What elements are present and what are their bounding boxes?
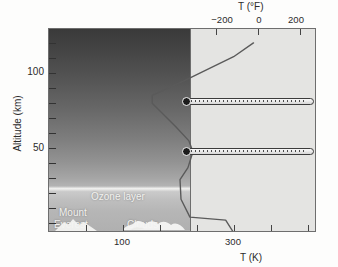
plot-area: Ozone layer Mount Everest Clouds — [48, 28, 316, 232]
bottom-tick-label-300: 300 — [218, 236, 248, 247]
top-tick-label-2: 200 — [282, 14, 310, 25]
thermometer-bulb — [182, 147, 191, 156]
y-tick-label-50: 50 — [14, 142, 44, 153]
thermometer-bulb — [182, 97, 191, 106]
bottom-axis-title: T (K) — [240, 252, 262, 263]
thermometer-icon-upper — [182, 97, 314, 106]
bottom-tick-label-100: 100 — [107, 236, 137, 247]
top-tick-label-0: −200 — [205, 14, 239, 25]
thermometer-icon-lower — [182, 147, 314, 156]
atmosphere-temperature-figure: T (°F) −200 0 200 Altitude (km) 100 50 O… — [0, 0, 338, 267]
y-tick-label-100: 100 — [14, 66, 44, 77]
temperature-profile-curve — [49, 29, 315, 231]
top-axis-title: T (°F) — [238, 1, 263, 12]
top-tick-label-1: 0 — [249, 14, 269, 25]
